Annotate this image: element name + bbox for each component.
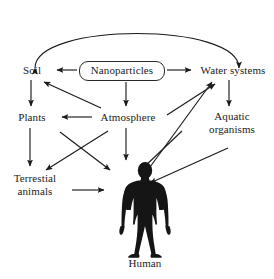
diagram-canvas: Nanoparticles Soil Water systems Plants … <box>0 0 274 279</box>
edge-plants-human <box>60 132 110 170</box>
node-terrestial-animals[interactable]: Terrestial animals <box>2 172 68 197</box>
edge-aquatic-human <box>150 148 228 183</box>
node-plants[interactable]: Plants <box>8 111 56 124</box>
node-nanoparticles[interactable]: Nanoparticles <box>79 61 165 81</box>
node-atmosphere[interactable]: Atmosphere <box>95 111 161 124</box>
node-human-label[interactable]: Human <box>119 257 171 270</box>
human-silhouette-icon <box>119 162 170 258</box>
diagram-arrows-layer <box>0 0 274 279</box>
node-water-systems[interactable]: Water systems <box>194 64 272 77</box>
node-soil[interactable]: Soil <box>12 64 52 77</box>
edge-atmosphere-terrestial <box>46 131 108 170</box>
node-aquatic-organisms[interactable]: Aquatic organisms <box>200 110 264 135</box>
edge-atmosphere-soil <box>44 82 101 108</box>
